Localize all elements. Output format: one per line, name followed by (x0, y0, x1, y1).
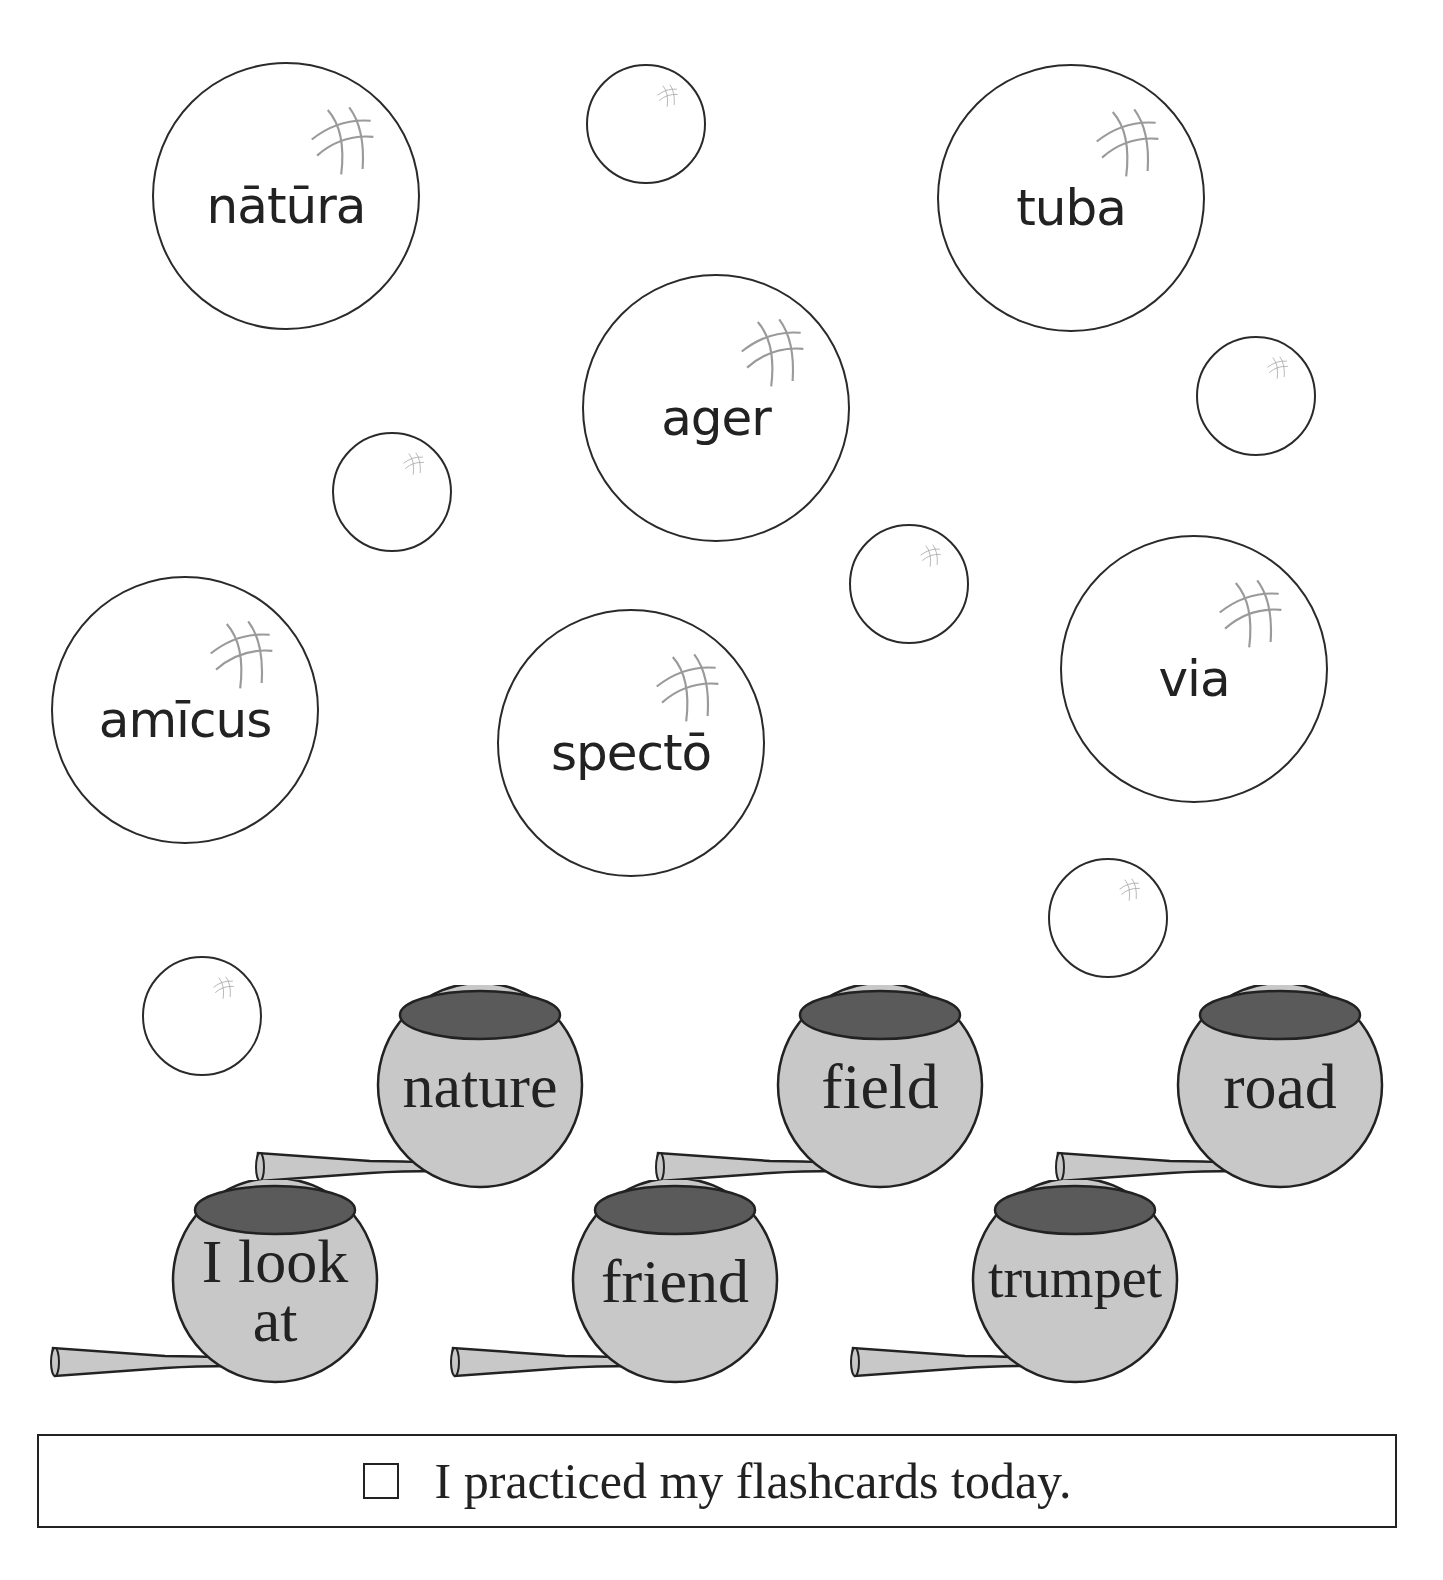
shine-icon (1086, 104, 1166, 184)
shine-icon (1116, 877, 1142, 903)
english-word-pot[interactable]: field (650, 985, 990, 1185)
small-bubble (1048, 858, 1168, 978)
english-word-pot[interactable]: I lookat (45, 1180, 385, 1380)
shine-icon (1264, 355, 1290, 381)
english-word-pot[interactable]: road (1050, 985, 1390, 1185)
latin-bubble[interactable]: spectō (497, 609, 765, 877)
english-word-pot[interactable]: nature (250, 985, 590, 1185)
english-word-line2: at (173, 1291, 377, 1350)
shine-icon (646, 649, 726, 729)
shine-icon (1209, 575, 1289, 655)
small-bubble (849, 524, 969, 644)
shine-icon (210, 975, 236, 1001)
latin-word: tuba (939, 179, 1203, 237)
shine-icon (200, 616, 280, 696)
small-bubble (1196, 336, 1316, 456)
latin-bubble[interactable]: tuba (937, 64, 1205, 332)
latin-word: via (1062, 650, 1326, 708)
shine-icon (301, 102, 381, 182)
small-bubble (332, 432, 452, 552)
english-word: field (778, 1057, 982, 1118)
small-bubble (142, 956, 262, 1076)
practice-confirmation-bar: I practiced my flashcards today. (37, 1434, 1397, 1528)
shine-icon (400, 451, 426, 477)
english-word-pot[interactable]: trumpet (845, 1180, 1185, 1380)
english-word: road (1178, 1057, 1382, 1118)
english-word: friend (573, 1252, 777, 1311)
shine-icon (654, 83, 680, 109)
small-bubble (586, 64, 706, 184)
latin-bubble[interactable]: via (1060, 535, 1328, 803)
english-word-pot[interactable]: friend (445, 1180, 785, 1380)
latin-word: ager (584, 389, 848, 447)
english-word: trumpet (973, 1252, 1177, 1305)
practice-statement: I practiced my flashcards today. (435, 1452, 1072, 1510)
latin-bubble[interactable]: nātūra (152, 62, 420, 330)
latin-word: spectō (499, 724, 763, 782)
latin-bubble[interactable]: ager (582, 274, 850, 542)
english-word: I lookat (173, 1232, 377, 1350)
latin-word: nātūra (154, 177, 418, 235)
latin-word: amīcus (53, 691, 317, 749)
english-word: nature (378, 1057, 582, 1116)
shine-icon (731, 314, 811, 394)
shine-icon (917, 543, 943, 569)
english-word-line1: I look (173, 1232, 377, 1291)
latin-bubble[interactable]: amīcus (51, 576, 319, 844)
practice-checkbox[interactable] (363, 1463, 399, 1499)
